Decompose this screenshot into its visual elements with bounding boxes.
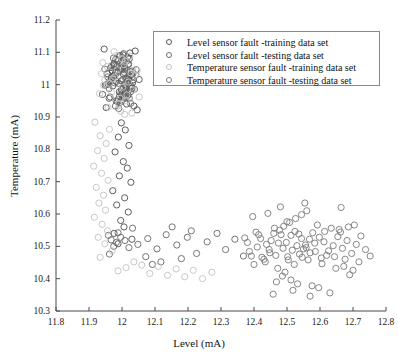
- scatter-plot-figure: Temperature (mA) Level (mA) 10.310.410.5…: [0, 0, 398, 361]
- legend-marker-circle-icon: [166, 64, 172, 70]
- series-points: [242, 200, 374, 299]
- legend: Level sensor fault -training data setLev…: [153, 31, 380, 86]
- legend-entry[interactable]: Level sensor fault -training data set: [154, 36, 379, 49]
- legend-entry-label: Level sensor fault -testing data set: [187, 50, 324, 61]
- y-tick-label: 11.2: [8, 15, 50, 25]
- x-tick-label: 12.3: [213, 317, 230, 327]
- y-tick-label: 10.7: [8, 177, 50, 187]
- x-tick-label: 12: [117, 317, 127, 327]
- legend-marker-circle-icon: [166, 77, 172, 83]
- x-tick-label: 12.1: [147, 317, 164, 327]
- legend-entry-label: Temperature sensor fault -training data …: [187, 62, 356, 73]
- y-tick-label: 11: [8, 80, 50, 90]
- x-tick-label: 12.6: [312, 317, 329, 327]
- legend-entry[interactable]: Level sensor fault -testing data set: [154, 49, 379, 62]
- y-tick-label: 10.8: [8, 144, 50, 154]
- y-tick-label: 10.3: [8, 306, 50, 316]
- x-tick-label: 12.5: [279, 317, 296, 327]
- x-axis-label: Level (mA): [0, 337, 398, 349]
- x-tick-label: 12.2: [180, 317, 197, 327]
- x-tick-label: 11.9: [81, 317, 97, 327]
- legend-entry[interactable]: Temperature sensor fault -training data …: [154, 61, 379, 74]
- y-tick-label: 11.1: [8, 47, 50, 57]
- x-tick-label: 12.4: [246, 317, 263, 327]
- legend-entry[interactable]: Temperature sensor fault -testing data s…: [154, 74, 379, 87]
- legend-entry-label: Temperature sensor fault -testing data s…: [187, 75, 352, 86]
- legend-marker-circle-icon: [166, 52, 172, 58]
- y-tick-label: 10.4: [8, 274, 50, 284]
- legend-marker-circle-icon: [166, 39, 172, 45]
- x-tick-label: 12.7: [345, 317, 362, 327]
- x-tick-label: 11.8: [48, 317, 64, 327]
- y-tick-label: 10.5: [8, 241, 50, 251]
- x-tick-label: 12.8: [378, 317, 395, 327]
- y-tick-label: 10.9: [8, 112, 50, 122]
- y-tick-label: 10.6: [8, 209, 50, 219]
- legend-entry-label: Level sensor fault -training data set: [187, 37, 328, 48]
